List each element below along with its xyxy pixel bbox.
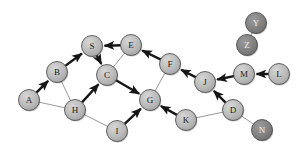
node-circle[interactable] [246, 13, 267, 34]
node-circle[interactable] [140, 90, 161, 111]
graph-arrow-k-to-g [161, 106, 178, 116]
node-circle[interactable] [234, 64, 255, 85]
node-circle[interactable] [19, 90, 40, 111]
graph-node-n[interactable]: N [252, 120, 274, 142]
graph-edge-k-d [195, 112, 223, 118]
graph-node-s[interactable]: S [82, 36, 104, 58]
node-circle[interactable] [82, 36, 103, 57]
graph-node-g[interactable]: G [140, 90, 162, 112]
node-circle[interactable] [269, 64, 290, 85]
graph-node-h[interactable]: H [65, 100, 87, 122]
graph-canvas-svg: ABSCEFHGIKJDMLNYZ [0, 0, 305, 156]
node-circle[interactable] [223, 100, 244, 121]
node-circle[interactable] [47, 62, 68, 83]
node-circle[interactable] [252, 120, 273, 141]
node-circle[interactable] [237, 35, 258, 56]
node-circle[interactable] [97, 65, 118, 86]
graph-node-l[interactable]: L [269, 64, 291, 86]
graph-edge-a-h [38, 102, 65, 108]
node-circle[interactable] [160, 54, 181, 75]
graph-node-b[interactable]: B [47, 62, 69, 84]
graph-arrow-m-to-j [217, 76, 235, 80]
graph-node-a[interactable]: A [19, 90, 41, 112]
node-circle[interactable] [121, 35, 142, 56]
node-layer: ABSCEFHGIKJDMLNYZ [19, 13, 291, 143]
graph-arrow-a-to-b [35, 81, 48, 94]
graph-node-m[interactable]: M [234, 64, 256, 86]
graph-edge-h-i [83, 114, 108, 127]
graph-edge-d-n [241, 115, 254, 124]
graph-node-d[interactable]: D [223, 100, 245, 122]
graph-edge-f-g [155, 72, 166, 91]
node-circle[interactable] [107, 121, 128, 142]
graph-arrow-h-to-c [81, 84, 98, 103]
graph-arrow-j-to-f [181, 70, 197, 78]
graph-node-f[interactable]: F [160, 54, 182, 76]
graph-node-j[interactable]: J [195, 72, 217, 94]
graph-edge-b-h [61, 81, 71, 102]
graph-edge-c-e [113, 52, 125, 67]
node-circle[interactable] [195, 72, 216, 93]
graph-node-y[interactable]: Y [246, 13, 268, 35]
graph-arrow-f-to-e [142, 50, 162, 60]
graph-node-k[interactable]: K [176, 110, 198, 132]
graph-arrow-i-to-g [124, 109, 141, 125]
graph-node-e[interactable]: E [121, 35, 143, 57]
graph-node-i[interactable]: I [107, 121, 129, 143]
graph-diagram: ABSCEFHGIKJDMLNYZ [0, 0, 305, 156]
graph-arrow-c-to-g [115, 80, 139, 94]
graph-arrow-b-to-s [64, 53, 82, 66]
graph-node-c[interactable]: C [97, 65, 119, 87]
graph-arrow-d-to-j [214, 91, 227, 104]
node-circle[interactable] [176, 110, 197, 131]
node-circle[interactable] [65, 100, 86, 121]
graph-node-z[interactable]: Z [237, 35, 259, 57]
